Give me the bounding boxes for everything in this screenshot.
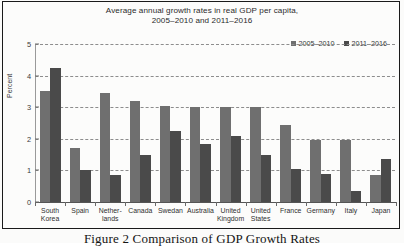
bar-group (310, 44, 331, 202)
x-axis-label-line: France (276, 207, 306, 215)
bar (130, 101, 141, 202)
x-axis-label-line: Australia (185, 207, 215, 215)
bar (280, 125, 291, 202)
bar-group (250, 44, 271, 202)
bar-group (220, 44, 241, 202)
x-axis-label-line: Spain (65, 207, 95, 215)
bar (351, 191, 362, 202)
chart-frame: Average annual growth rates in real GDP … (2, 1, 400, 229)
x-axis-label-line: Germany (306, 207, 336, 215)
x-axis-label: SouthKorea (35, 207, 65, 224)
x-tick-mark (185, 202, 186, 206)
x-axis-label: Canada (125, 207, 155, 215)
bar (170, 131, 181, 202)
bar (200, 144, 211, 202)
figure-caption: Figure 2 Comparison of GDP Growth Rates (0, 231, 404, 247)
x-axis-label-line: South (35, 207, 65, 215)
x-axis-label: Japan (366, 207, 396, 215)
x-axis-label-line: Kingdom (216, 215, 246, 223)
bar-group (100, 44, 121, 202)
x-axis-label-line: United (216, 207, 246, 215)
bar (50, 68, 61, 202)
bar-group (160, 44, 181, 202)
x-tick-mark (65, 202, 66, 206)
x-axis-label-line: Nether- (95, 207, 125, 215)
bar (110, 175, 121, 202)
x-axis-label-line: lands (95, 215, 125, 223)
x-tick-mark (366, 202, 367, 206)
y-tick-mark-3 (35, 107, 39, 108)
y-tick-label-5: 5 (27, 40, 31, 49)
y-axis-line (35, 44, 36, 203)
chart-title: Average annual growth rates in real GDP … (3, 6, 401, 27)
y-tick-label-2: 2 (27, 134, 31, 143)
x-tick-mark (336, 202, 337, 206)
y-tick-label-1: 1 (27, 166, 31, 175)
x-axis-label-line: Canada (125, 207, 155, 215)
bar (321, 174, 332, 202)
y-tick-mark-2 (35, 138, 39, 139)
x-tick-mark (35, 202, 36, 206)
x-axis-label: Australia (185, 207, 215, 215)
x-axis-label: Germany (306, 207, 336, 215)
y-tick-label-0: 0 (27, 198, 31, 207)
x-tick-mark (306, 202, 307, 206)
bar (220, 107, 231, 202)
bar (231, 136, 242, 202)
y-tick-mark-1 (35, 170, 39, 171)
bar-group (340, 44, 361, 202)
bar (140, 155, 151, 202)
bar (370, 175, 381, 202)
x-tick-mark (155, 202, 156, 206)
y-axis-title: Percent (6, 74, 13, 98)
bar-group (130, 44, 151, 202)
bar (70, 148, 81, 202)
bar (340, 140, 351, 202)
y-axis-ticks: 012345 (17, 44, 31, 202)
x-axis-labels: SouthKoreaSpainNether-landsCanadaSwedanA… (35, 207, 396, 229)
bar-groups (35, 44, 396, 202)
x-axis-label: Nether-lands (95, 207, 125, 224)
y-tick-mark-4 (35, 75, 39, 76)
bar (250, 107, 261, 202)
chart-title-line1: Average annual growth rates in real GDP … (3, 6, 401, 16)
bar (160, 106, 171, 202)
chart-title-line2: 2005–2010 and 2011–2016 (3, 16, 401, 26)
x-tick-mark (276, 202, 277, 206)
bar-group (280, 44, 301, 202)
x-axis-label-line: Korea (35, 215, 65, 223)
x-tick-mark (396, 202, 397, 206)
x-axis-label: UnitedStates (246, 207, 276, 224)
x-axis-label-line: United (246, 207, 276, 215)
x-tick-mark (95, 202, 96, 206)
bar-group (70, 44, 91, 202)
bar-group (40, 44, 61, 202)
bar (40, 91, 51, 202)
x-axis-label-line: Japan (366, 207, 396, 215)
bar (190, 107, 201, 202)
x-axis-label-line: Swedan (155, 207, 185, 215)
x-axis-label: UnitedKingdom (216, 207, 246, 224)
y-tick-mark-5 (35, 44, 39, 45)
bar (100, 93, 111, 202)
bar (261, 155, 272, 202)
y-tick-label-4: 4 (27, 71, 31, 80)
bar (80, 170, 91, 202)
bar-group (370, 44, 391, 202)
y-tick-label-3: 3 (27, 103, 31, 112)
x-axis-label: Italy (336, 207, 366, 215)
x-axis-label: France (276, 207, 306, 215)
bar-group (190, 44, 211, 202)
bar (381, 159, 392, 202)
x-axis-label: Swedan (155, 207, 185, 215)
x-axis-label-line: States (246, 215, 276, 223)
x-tick-mark (216, 202, 217, 206)
bar (291, 169, 302, 202)
x-tick-mark (125, 202, 126, 206)
bar (310, 140, 321, 202)
x-axis-label: Spain (65, 207, 95, 215)
x-tick-mark (246, 202, 247, 206)
x-axis-label-line: Italy (336, 207, 366, 215)
